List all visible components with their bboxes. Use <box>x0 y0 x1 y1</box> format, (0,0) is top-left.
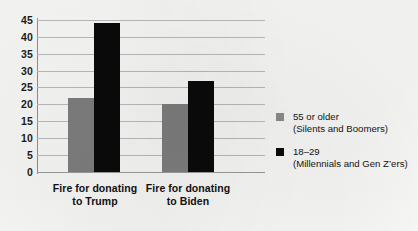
y-axis-tick-labels: 45 40 35 30 25 20 15 10 5 0 <box>0 0 33 231</box>
legend-sublabel-older: (Silents and Boomers) <box>293 123 416 135</box>
y-tick-label: 40 <box>0 32 33 43</box>
y-tick-label: 15 <box>0 116 33 127</box>
legend-swatch-icon-young <box>276 148 284 156</box>
bar-biden-55-or-older <box>162 104 188 172</box>
legend-label-young: 18–29 <box>293 146 416 158</box>
y-tick-label: 35 <box>0 49 33 60</box>
y-tick-label: 0 <box>0 167 33 178</box>
x-label-biden: Fire for donating to Biden <box>133 182 243 209</box>
bar-biden-18-29 <box>188 81 214 172</box>
y-tick-label: 20 <box>0 99 33 110</box>
y-tick-label: 30 <box>0 66 33 77</box>
y-tick-label: 45 <box>0 15 33 26</box>
legend-entry-18-29: 18–29 (Millennials and Gen Z’ers) <box>276 146 416 170</box>
bars-layer <box>37 14 265 178</box>
legend-swatch-icon-older <box>276 113 284 121</box>
plot-area <box>37 14 265 178</box>
x-label-biden-line1: Fire for donating <box>133 182 243 195</box>
bar-chart: 45 40 35 30 25 20 15 10 5 0 <box>0 0 418 231</box>
y-tick-label: 25 <box>0 82 33 93</box>
bar-trump-55-or-older <box>68 98 94 172</box>
legend-label-older: 55 or older <box>293 111 416 123</box>
x-axis-labels: Fire for donating to Trump Fire for dona… <box>37 182 265 222</box>
legend-sublabel-young: (Millennials and Gen Z’ers) <box>293 158 416 170</box>
y-tick-label: 10 <box>0 133 33 144</box>
bar-trump-18-29 <box>94 23 120 172</box>
legend: 55 or older (Silents and Boomers) 18–29 … <box>276 111 416 181</box>
x-label-biden-line2: to Biden <box>133 195 243 208</box>
legend-entry-55-or-older: 55 or older (Silents and Boomers) <box>276 111 416 135</box>
y-tick-label: 5 <box>0 150 33 161</box>
